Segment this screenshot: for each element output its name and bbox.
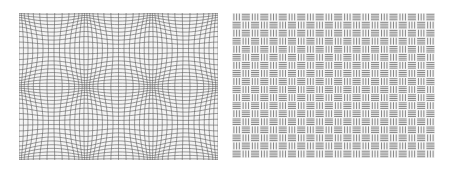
hatched-checkerboard-figure [232,13,435,158]
warped-grid-illustration [19,13,218,160]
warped-grid-figure [19,13,218,160]
hatched-checkerboard-illustration [232,13,435,158]
checker-background [232,13,435,158]
